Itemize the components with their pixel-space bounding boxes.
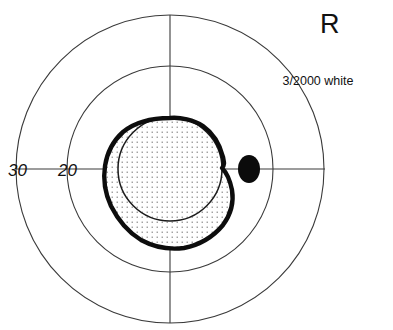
stimulus-label: 3/2000 white — [283, 74, 354, 88]
visual-field-chart: 30 20 R 3/2000 white — [0, 0, 393, 330]
axis-tick-label-20: 20 — [57, 161, 77, 180]
eye-label-right: R — [320, 9, 340, 39]
perimetry-plot: 30 20 R 3/2000 white — [0, 0, 393, 330]
blind-spot-marker — [238, 155, 260, 183]
axis-tick-label-30: 30 — [8, 161, 27, 180]
